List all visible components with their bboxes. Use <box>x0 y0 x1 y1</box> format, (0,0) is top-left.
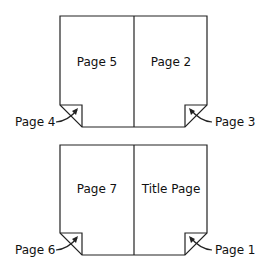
corner-label: Page 6 <box>15 243 56 257</box>
corner-label: Page 1 <box>215 243 256 257</box>
panel-label: Page 7 <box>77 182 118 196</box>
corner-label: Page 4 <box>15 115 56 129</box>
corner-label: Page 3 <box>215 115 256 129</box>
top-sheet: Page 5 Page 2 Page 4 Page 3 <box>15 16 256 129</box>
panel-label: Page 2 <box>151 55 192 69</box>
panel-label: Title Page <box>141 182 201 196</box>
bottom-sheet: Page 7 Title Page Page 6 Page 1 <box>15 145 256 257</box>
booklet-diagram: Page 5 Page 2 Page 4 Page 3 Page 7 Title… <box>0 0 266 273</box>
panel-label: Page 5 <box>77 55 118 69</box>
